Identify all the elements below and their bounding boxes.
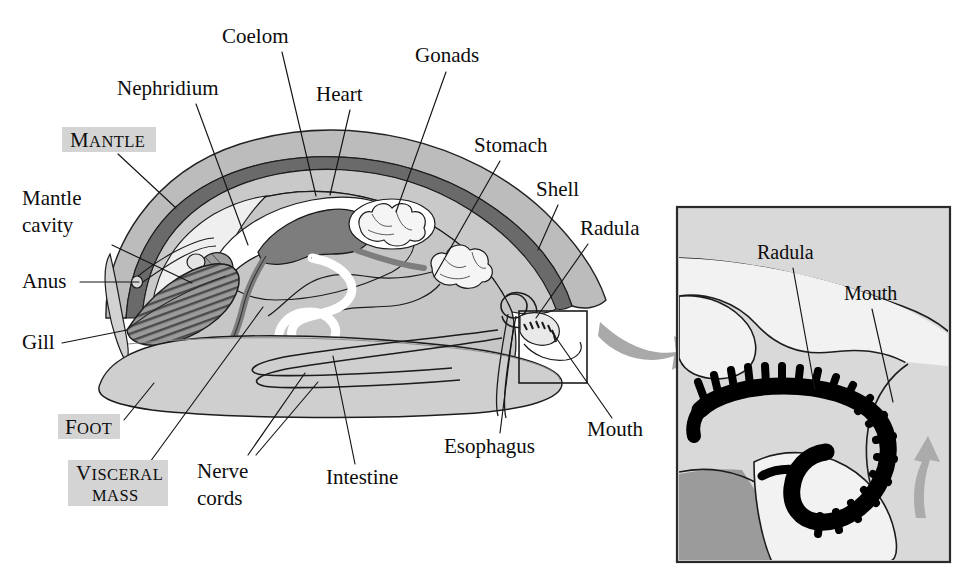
gonads	[349, 199, 435, 249]
label-gill: Gill	[22, 330, 55, 354]
mollusc-anatomy-diagram: Coelom Nephridium Heart Gonads Stomach S…	[0, 0, 980, 581]
mouth-radula-region	[520, 313, 581, 361]
region-label-mantle-text: MANTLE	[70, 128, 145, 152]
label-mantle-cavity-line2: cavity	[22, 213, 74, 237]
label-shell: Shell	[536, 177, 579, 201]
region-label-foot: FOOT	[58, 414, 120, 439]
label-coelom: Coelom	[222, 24, 289, 48]
label-stomach: Stomach	[474, 133, 548, 157]
label-mantle-cavity-line1: Mantle	[22, 186, 81, 210]
label-gonads: Gonads	[415, 43, 479, 67]
label-mouth: Mouth	[587, 417, 644, 441]
radula-inset-panel: Radula Mouth	[677, 207, 950, 562]
label-anus: Anus	[22, 269, 66, 293]
label-intestine: Intestine	[326, 465, 398, 489]
label-nerve-cords-line1: Nerve	[197, 459, 248, 483]
label-heart: Heart	[316, 82, 363, 106]
label-esophagus: Esophagus	[444, 434, 535, 458]
inset-label-radula: Radula	[757, 241, 814, 263]
figure-canvas: Coelom Nephridium Heart Gonads Stomach S…	[0, 0, 980, 581]
region-label-mass-text: MASS	[92, 486, 139, 505]
region-label-visceral-mass: VISCERAL MASS	[68, 460, 168, 506]
label-nephridium: Nephridium	[117, 76, 218, 100]
inset-label-mouth: Mouth	[844, 282, 897, 304]
region-label-mantle: MANTLE	[62, 127, 156, 152]
region-label-foot-text: FOOT	[65, 415, 112, 439]
label-nerve-cords-line2: cords	[197, 486, 243, 510]
region-label-visceral-text: VISCERAL	[76, 461, 163, 485]
label-radula: Radula	[580, 216, 640, 240]
